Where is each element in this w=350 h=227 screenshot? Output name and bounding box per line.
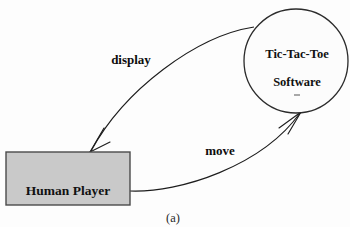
tic-tac-toe-software-circle[interactable] [244, 9, 348, 113]
figure-caption: (a) [166, 211, 180, 225]
display-edge-path [91, 27, 254, 151]
tic-tac-toe-software-node[interactable]: Tic-Tac-Toe Software [244, 9, 348, 113]
human-player-node[interactable]: Human Player [6, 152, 130, 205]
tic-tac-toe-software-label-line-2: Software [273, 75, 321, 89]
display-edge-label: display [111, 52, 151, 67]
figure-canvas: Human Player Tic-Tac-Toe Software displa… [0, 0, 350, 227]
human-player-label: Human Player [26, 183, 110, 198]
display-edge [90, 27, 254, 152]
move-arrowhead-barb-upper [288, 112, 301, 134]
tic-tac-toe-software-label-line-1: Tic-Tac-Toe [265, 47, 329, 61]
move-edge-label: move [205, 143, 235, 158]
diagram-svg: Human Player Tic-Tac-Toe Software displa… [0, 0, 350, 227]
